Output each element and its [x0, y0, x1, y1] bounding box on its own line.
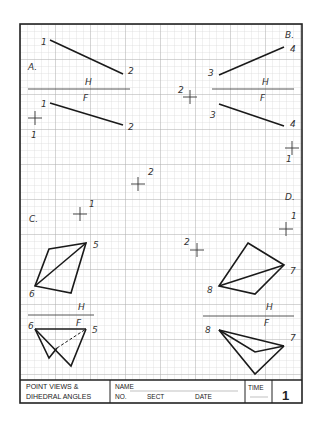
- point-label: 7: [290, 333, 296, 343]
- point-label: 2: [128, 66, 134, 76]
- no-label: NO.: [115, 393, 127, 400]
- point-label: 2: [178, 85, 184, 95]
- grid-paper: [20, 24, 302, 380]
- fold-label-h: H: [262, 77, 269, 87]
- point-label: 1: [41, 99, 47, 109]
- point-label: 6: [29, 289, 35, 299]
- name-label: NAME: [115, 383, 134, 390]
- point-label: 1: [31, 130, 37, 140]
- date-label: DATE: [195, 393, 213, 400]
- problem-c-label: C.: [29, 214, 38, 224]
- sect-label: SECT: [147, 393, 164, 400]
- time-label: TIME: [248, 384, 264, 391]
- sheet-number: 1: [282, 388, 289, 403]
- point-label: 5: [93, 240, 99, 250]
- drawing-sheet: A. 1 2 H F 1 2 1 B. 3 4 H F 3 4 2 1: [0, 0, 320, 429]
- fold-label-f: F: [76, 318, 82, 328]
- problem-b-label: B.: [285, 30, 294, 40]
- point-label: 4: [290, 44, 296, 54]
- title-line-1: POINT VIEWS &: [26, 383, 79, 390]
- point-label: 1: [291, 211, 297, 221]
- point-label: 5: [92, 325, 98, 335]
- point-label: 3: [208, 68, 214, 78]
- point-label: 8: [207, 285, 213, 295]
- title-block: POINT VIEWS & DIHEDRAL ANGLES NAME NO. S…: [20, 380, 302, 403]
- point-label: 7: [290, 266, 296, 276]
- point-label: 6: [28, 321, 34, 331]
- point-label: 1: [89, 199, 95, 209]
- fold-label-f: F: [260, 93, 266, 103]
- fold-label-f: F: [264, 318, 270, 328]
- problem-d-label: D.: [285, 192, 295, 202]
- point-label: 1: [41, 37, 47, 47]
- fold-label-f: F: [83, 93, 89, 103]
- point-label: 3: [210, 110, 216, 120]
- point-label: 2: [128, 122, 134, 132]
- title-line-2: DIHEDRAL ANGLES: [26, 393, 91, 400]
- fold-label-h: H: [85, 77, 92, 87]
- point-label: 2: [148, 167, 154, 177]
- point-label: 1: [286, 154, 292, 164]
- problem-a-label: A.: [27, 62, 37, 72]
- fold-label-h: H: [266, 302, 273, 312]
- point-label: 2: [184, 237, 190, 247]
- point-label: 4: [290, 119, 296, 129]
- fold-label-h: H: [78, 302, 85, 312]
- point-label: 8: [205, 325, 211, 335]
